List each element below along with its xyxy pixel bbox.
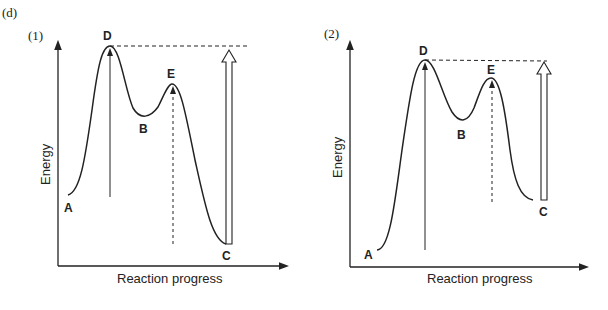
point-e-label: E <box>487 63 495 77</box>
figure-label: (d) <box>2 5 17 20</box>
point-e-label: E <box>167 67 175 81</box>
energy-curve <box>377 60 533 250</box>
hollow-arrow-icon <box>222 50 236 244</box>
x-axis-label: Reaction progress <box>117 271 223 286</box>
point-a-label: A <box>64 201 73 215</box>
point-a-label: A <box>364 248 373 262</box>
y-axis-label: Energy <box>38 143 53 185</box>
point-b-label: B <box>457 128 466 142</box>
point-b-label: B <box>139 122 148 136</box>
y-axis-label: Energy <box>330 136 345 178</box>
panel-2: (2) Energy Reaction progress D E B A C <box>324 26 584 286</box>
reference-dashed-line <box>425 60 547 61</box>
hollow-arrow-icon <box>537 62 551 200</box>
point-c-label: C <box>539 205 548 219</box>
energy-curve <box>68 46 226 244</box>
point-c-label: C <box>222 249 231 263</box>
panel-1: (1) Energy Reaction progress D E B A C <box>28 28 284 286</box>
panel-2-tag: (2) <box>324 26 339 41</box>
point-d-label: D <box>419 44 428 58</box>
energy-diagram-figure: (d) (1) Energy Reaction progress D E B A… <box>0 0 608 310</box>
x-axis-label: Reaction progress <box>427 271 533 286</box>
panel-1-tag: (1) <box>28 28 43 43</box>
point-d-label: D <box>103 29 112 43</box>
